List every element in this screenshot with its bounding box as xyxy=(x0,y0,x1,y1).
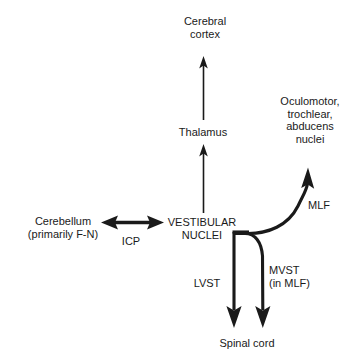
node-label-thalamus: Thalamus xyxy=(143,126,263,139)
diagram-connections-svg xyxy=(0,0,351,359)
diagram-canvas: Cerebral cortex Thalamus Oculomotor, tro… xyxy=(0,0,351,359)
connector-thalamus-to-cerebral-cortex xyxy=(199,56,208,120)
pathway-label-icp: ICP xyxy=(106,235,156,248)
pathway-label-mvst: MVST (in MLF) xyxy=(269,264,331,289)
node-label-vestibular-nuclei: VESTIBULAR NUCLEI xyxy=(147,216,257,241)
connector-vestibular-to-spinal-mvst xyxy=(236,234,270,329)
node-label-oculomotor-nuclei: Oculomotor, trochlear, abducens nuclei xyxy=(262,95,351,145)
pathway-label-lvst: LVST xyxy=(181,277,233,290)
pathway-label-mlf: MLF xyxy=(308,199,350,212)
node-label-spinal-cord: Spinal cord xyxy=(192,337,302,350)
connector-vestibular-to-thalamus xyxy=(199,144,208,213)
node-label-cerebral-cortex: Cerebral cortex xyxy=(150,15,260,40)
